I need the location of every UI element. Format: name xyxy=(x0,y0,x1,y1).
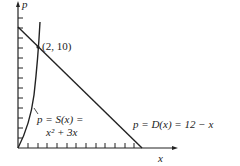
demand-line xyxy=(18,27,142,148)
x-axis-arrow-icon xyxy=(172,146,178,150)
y-ticks xyxy=(18,18,23,138)
supply-label-line1: p = S(x) = xyxy=(36,113,83,126)
y-axis-arrow-icon xyxy=(16,1,20,7)
demand-label: p = D(x) = 12 − x xyxy=(132,118,213,131)
supply-label-line2: x² + 3x xyxy=(45,126,78,138)
supply-curve xyxy=(18,22,40,148)
equilibrium-point xyxy=(36,45,39,48)
y-axis-label: p xyxy=(21,0,28,10)
point-label: (2, 10) xyxy=(42,40,72,53)
x-ticks xyxy=(28,143,134,148)
x-axis-label: x xyxy=(157,152,163,164)
supply-demand-diagram: (2, 10) p x p = S(x) = x² + 3x p = D(x) … xyxy=(0,0,240,166)
